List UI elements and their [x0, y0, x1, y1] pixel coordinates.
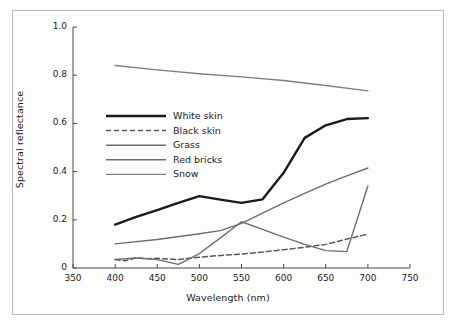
spectral-reflectance-chart: Wavelength (nm) Spectral reflectance 350…	[0, 0, 456, 326]
legend-item-red-bricks: Red bricks	[173, 154, 222, 165]
axes	[73, 27, 410, 268]
series-line-white-skin	[115, 118, 368, 225]
legend-item-snow: Snow	[173, 168, 199, 179]
data-series-group	[115, 66, 368, 265]
series-line-grass	[115, 186, 368, 264]
x-tick-label: 750	[390, 273, 430, 283]
x-tick-label: 500	[179, 273, 219, 283]
x-axis-title: Wavelength (nm)	[0, 292, 456, 303]
y-tick-label: 0.2	[41, 214, 67, 224]
y-tick-label: 0	[41, 262, 67, 272]
x-axis-ticks	[73, 264, 410, 268]
series-line-red-bricks	[115, 168, 368, 244]
y-tick-label: 0.6	[41, 117, 67, 127]
legend-item-black-skin: Black skin	[173, 125, 221, 136]
y-axis-title: Spectral reflectance	[14, 80, 25, 200]
y-tick-label: 0.8	[41, 69, 67, 79]
x-tick-label: 600	[264, 273, 304, 283]
x-tick-label: 650	[306, 273, 346, 283]
x-tick-label: 450	[137, 273, 177, 283]
legend-swatches	[106, 116, 166, 174]
x-tick-label: 350	[53, 273, 93, 283]
y-tick-label: 0.4	[41, 166, 67, 176]
x-tick-label: 700	[348, 273, 388, 283]
series-line-black-skin	[115, 234, 368, 261]
y-axis-ticks	[73, 27, 77, 268]
y-tick-label: 1.0	[41, 21, 67, 31]
series-line-snow	[115, 66, 368, 91]
legend-item-grass: Grass	[173, 139, 200, 150]
legend-item-white-skin: White skin	[173, 110, 223, 121]
x-tick-label: 400	[95, 273, 135, 283]
x-tick-label: 550	[222, 273, 262, 283]
